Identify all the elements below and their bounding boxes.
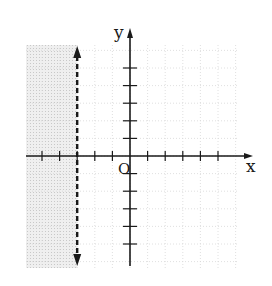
origin-label: O xyxy=(118,160,130,178)
coordinate-plane: y x O xyxy=(0,0,272,286)
x-axis-label: x xyxy=(246,156,256,176)
y-axis-label: y xyxy=(113,22,124,42)
